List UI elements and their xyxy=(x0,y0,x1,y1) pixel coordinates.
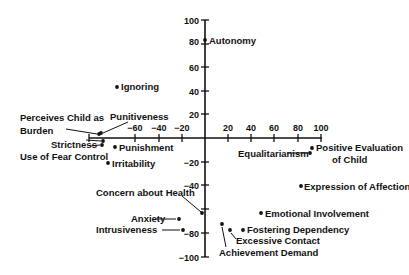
y-tick-label: −100 xyxy=(179,253,199,263)
point-fear-control xyxy=(100,143,104,147)
y-tick-label: 100 xyxy=(184,16,199,26)
point-anxiety xyxy=(177,217,181,221)
point-strictness xyxy=(101,139,105,143)
label-punishment: Punishment xyxy=(119,142,174,153)
label-perceives-burden-line2: Burden xyxy=(20,125,53,136)
x-tick-label: 20 xyxy=(223,123,233,133)
label-anxiety: Anxiety xyxy=(131,213,166,224)
axes xyxy=(89,20,322,257)
y-tick-label: 40 xyxy=(189,87,199,97)
x-tick-label: −20 xyxy=(174,123,189,133)
point-fostering-dependency xyxy=(241,228,245,232)
label-fear-control: Use of Fear Control xyxy=(20,151,108,162)
x-tick-label: 80 xyxy=(293,123,303,133)
label-strictness: Strictness xyxy=(51,139,97,150)
point-intrusiveness xyxy=(181,228,185,232)
point-positive-evaluation xyxy=(310,146,314,150)
y-tick-label: 80 xyxy=(189,37,199,47)
x-tick-label: 40 xyxy=(246,123,256,133)
label-intrusiveness: Intrusiveness xyxy=(96,224,157,235)
label-autonomy: Autonomy xyxy=(209,35,257,46)
point-emotional-involvement xyxy=(259,211,263,215)
y-tick-label: −20 xyxy=(184,158,199,168)
point-achievement-demand xyxy=(220,222,224,226)
x-tick-label: −40 xyxy=(151,123,166,133)
x-tick-label: −60 xyxy=(127,123,142,133)
point-labels: Autonomy Ignoring Perceives Child as Bur… xyxy=(20,35,409,258)
scatter-chart: −60 −40 −20 20 40 60 80 100 100 80 60 40… xyxy=(0,0,409,275)
label-perceives-burden-line1: Perceives Child as xyxy=(20,112,104,123)
y-tick-label: 60 xyxy=(189,63,199,73)
label-emotional-involvement: Emotional Involvement xyxy=(265,208,370,219)
point-excessive-contact xyxy=(228,228,232,232)
y-tick-label: 20 xyxy=(189,110,199,120)
point-expression-affection xyxy=(299,184,303,188)
label-concern-health: Concern about Health xyxy=(96,187,195,198)
label-expression-affection: Expression of Affection xyxy=(304,181,409,192)
label-positive-evaluation-line1: Positive Evaluation xyxy=(316,142,403,153)
label-achievement-demand: Achievement Demand xyxy=(219,247,318,258)
point-punishment xyxy=(113,145,117,149)
y-tick-label: −80 xyxy=(184,229,199,239)
point-punitiveness xyxy=(99,131,103,135)
x-tick-label: 100 xyxy=(313,123,328,133)
label-positive-evaluation-line2: of Child xyxy=(332,154,368,165)
point-ignoring xyxy=(115,85,119,89)
label-punitiveness: Punitiveness xyxy=(110,111,169,122)
label-irritability: Irritability xyxy=(112,158,156,169)
x-tick-labels: −60 −40 −20 20 40 60 80 100 xyxy=(127,123,328,133)
label-equalitarianism: Equalitarianism xyxy=(238,148,309,159)
point-autonomy xyxy=(203,38,207,42)
label-excessive-contact: Excessive Contact xyxy=(236,235,321,246)
point-concern-health xyxy=(200,211,204,215)
label-fostering-dependency: Fostering Dependency xyxy=(247,224,350,235)
label-ignoring: Ignoring xyxy=(121,81,159,92)
x-tick-label: 60 xyxy=(269,123,279,133)
